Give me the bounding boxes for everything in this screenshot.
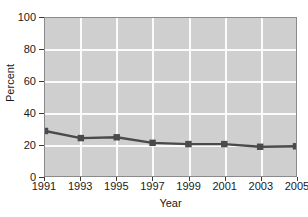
x-axis-tick-mark (44, 177, 45, 181)
y-axis-tick-mark (39, 113, 44, 114)
data-series-line: 1991: 28.51993: 241995: 24.51997: 211999… (45, 18, 296, 176)
x-axis-tick-label: 1991 (24, 181, 64, 192)
data-point-marker: 1995: 24.5 (113, 134, 119, 140)
y-axis-tick-mark (39, 17, 44, 18)
chart-container: 1991: 28.51993: 241995: 24.51997: 211999… (0, 0, 308, 217)
x-axis-tick-label: 1999 (169, 181, 209, 192)
x-axis-tick-mark (189, 177, 190, 181)
x-axis-tick-mark (80, 177, 81, 181)
data-point-marker: 1991: 28.5 (44, 128, 48, 134)
y-axis-tick-label: 100 (6, 12, 36, 23)
x-axis-tick-label: 1993 (60, 181, 100, 192)
y-axis-tick-mark (39, 49, 44, 50)
data-point-marker: 2005: 18.8 (293, 143, 297, 149)
x-axis-tick-label: 1995 (96, 181, 136, 192)
x-axis-tick-mark (297, 177, 298, 181)
y-axis-title: Percent (4, 53, 16, 113)
data-point-marker: 1993: 24 (78, 135, 84, 141)
x-axis-tick-label: 2005 (277, 181, 308, 192)
x-axis-tick-label: 2001 (205, 181, 245, 192)
data-point-marker: 1997: 21 (149, 140, 155, 146)
x-axis-tick-mark (225, 177, 226, 181)
data-point-marker: 2003: 18.5 (257, 144, 263, 150)
data-point-marker: 1999: 20.2 (185, 141, 191, 147)
y-axis-tick-mark (39, 81, 44, 82)
plot-area: 1991: 28.51993: 241995: 24.51997: 211999… (44, 17, 297, 177)
x-axis-title: Year (44, 197, 297, 209)
data-point-marker: 2001: 20.2 (221, 141, 227, 147)
x-axis-tick-label: 2003 (241, 181, 281, 192)
y-axis-tick-label: 20 (6, 140, 36, 151)
x-axis-tick-mark (152, 177, 153, 181)
x-axis-tick-label: 1997 (132, 181, 172, 192)
y-axis-tick-mark (39, 145, 44, 146)
x-axis-tick-mark (116, 177, 117, 181)
x-axis-tick-mark (261, 177, 262, 181)
